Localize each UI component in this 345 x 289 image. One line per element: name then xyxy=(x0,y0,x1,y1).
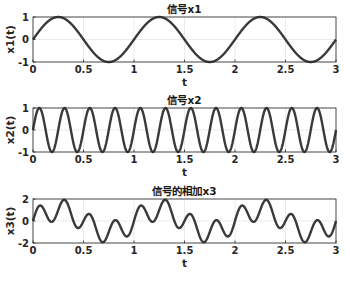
y-tick-label: 0 xyxy=(22,125,29,136)
x-tick-label: 1 xyxy=(131,64,138,75)
x-tick-label: 0.5 xyxy=(75,154,93,165)
x-tick-label: 0 xyxy=(30,64,37,75)
x-tick-label: 3 xyxy=(333,154,340,165)
x-axis-label: t xyxy=(182,76,187,88)
x-axis-label: t xyxy=(182,166,187,178)
x-tick-label: 1 xyxy=(131,245,138,256)
subplot-x1: 00.511.522.53-101信号x1tx1(t) xyxy=(4,3,340,88)
x-tick-label: 3 xyxy=(333,64,340,75)
subplot-title: 信号x2 xyxy=(167,94,201,106)
subplot-x2: 00.511.522.53-101信号x2tx2(t) xyxy=(4,94,340,178)
subplot-x3: 00.511.522.53-202信号的相加x3tx3(t) xyxy=(4,185,340,269)
y-tick-label: 1 xyxy=(22,103,29,114)
figure: 00.511.522.53-101信号x1tx1(t) 00.511.522.5… xyxy=(0,0,345,289)
y-tick-label: 1 xyxy=(22,12,29,23)
x-tick-label: 2.5 xyxy=(277,154,295,165)
x-tick-label: 3 xyxy=(333,245,340,256)
x-tick-label: 2 xyxy=(232,245,239,256)
x-tick-label: 0.5 xyxy=(75,245,93,256)
x-tick-label: 0 xyxy=(30,154,37,165)
y-tick-label: -1 xyxy=(18,147,29,158)
y-axis-label: x1(t) xyxy=(4,25,16,54)
subplot-title: 信号x1 xyxy=(167,3,201,15)
x-tick-label: 1.5 xyxy=(176,245,194,256)
x-tick-label: 0 xyxy=(30,245,37,256)
subplot-title: 信号的相加x3 xyxy=(152,185,216,197)
y-axis-label: x2(t) xyxy=(4,116,16,145)
x-axis-label: t xyxy=(182,257,187,269)
x-tick-label: 2.5 xyxy=(277,64,295,75)
x-tick-label: 2.5 xyxy=(277,245,295,256)
y-tick-label: -2 xyxy=(18,238,29,249)
y-axis-label: x3(t) xyxy=(4,207,16,236)
x-tick-label: 2 xyxy=(232,64,239,75)
x-tick-label: 1 xyxy=(131,154,138,165)
y-tick-label: -1 xyxy=(18,57,29,68)
x-tick-label: 2 xyxy=(232,154,239,165)
y-tick-label: 0 xyxy=(22,34,29,45)
x-tick-label: 1.5 xyxy=(176,154,194,165)
y-tick-label: 2 xyxy=(22,194,29,205)
y-tick-label: 0 xyxy=(22,216,29,227)
x-tick-label: 1.5 xyxy=(176,64,194,75)
x-tick-label: 0.5 xyxy=(75,64,93,75)
